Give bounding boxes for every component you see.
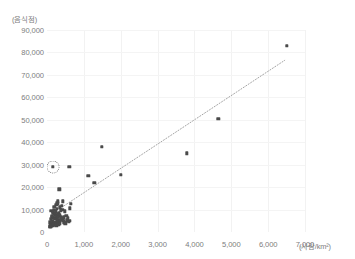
gridline-horizontal (47, 52, 305, 53)
data-point (58, 222, 61, 225)
gridline-vertical (231, 30, 232, 232)
y-axis-tick: 90,000 (2, 26, 44, 35)
x-axis-tick: 4,000 (185, 240, 204, 249)
y-axis-tick: 20,000 (2, 183, 44, 192)
gridline-horizontal (47, 187, 305, 188)
highlighted-point-circle (46, 160, 59, 173)
x-axis-tick: 7,000 (296, 240, 315, 249)
gridline-horizontal (47, 97, 305, 98)
data-point (100, 145, 103, 148)
y-axis-tick: 0 (2, 228, 44, 237)
data-point (61, 200, 64, 203)
data-point (56, 202, 59, 205)
y-axis-tick: 40,000 (2, 138, 44, 147)
gridline-horizontal (47, 75, 305, 76)
x-axis-tick: 3,000 (148, 240, 167, 249)
x-axis-tick: 0 (45, 240, 49, 249)
x-axis-tick: 6,000 (259, 240, 278, 249)
gridline-vertical (158, 30, 159, 232)
gridline-horizontal (47, 210, 305, 211)
y-axis-tick: 70,000 (2, 70, 44, 79)
data-point (63, 210, 66, 213)
y-axis-tick: 30,000 (2, 160, 44, 169)
data-point (57, 188, 60, 191)
x-axis-tick: 5,000 (222, 240, 241, 249)
gridline-horizontal (47, 120, 305, 121)
gridline-horizontal (47, 165, 305, 166)
y-axis-tick: 80,000 (2, 48, 44, 57)
data-point (87, 174, 90, 177)
data-point (285, 44, 288, 47)
y-axis-tick: 10,000 (2, 205, 44, 214)
data-point (68, 165, 71, 168)
trend-line (47, 30, 305, 232)
gridline-vertical (268, 30, 269, 232)
gridline-vertical (305, 30, 306, 232)
y-axis-tick: 50,000 (2, 115, 44, 124)
data-point (60, 204, 63, 207)
gridline-vertical (84, 30, 85, 232)
x-axis-tick: 1,000 (75, 240, 94, 249)
gridline-vertical (194, 30, 195, 232)
y-axis-tick-labels: 010,00020,00030,00040,00050,00060,00070,… (0, 0, 44, 259)
data-point (185, 152, 188, 155)
data-point (92, 181, 95, 184)
plot-area (47, 30, 305, 232)
data-point (69, 202, 72, 205)
x-axis-tick: 2,000 (111, 240, 130, 249)
data-point (49, 225, 52, 228)
scatter-chart: (음식점) (사람/km²) 010,00020,00030,00040,000… (0, 0, 355, 259)
gridline-horizontal (47, 30, 305, 31)
y-axis-tick: 60,000 (2, 93, 44, 102)
gridline-vertical (121, 30, 122, 232)
data-point (119, 173, 122, 176)
gridline-horizontal (47, 142, 305, 143)
data-point (67, 220, 70, 223)
